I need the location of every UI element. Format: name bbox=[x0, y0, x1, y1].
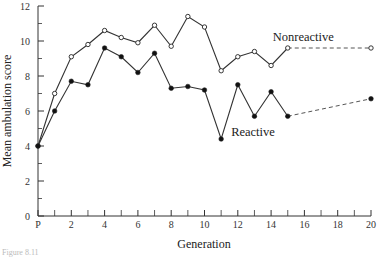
data-point bbox=[202, 88, 207, 93]
data-point bbox=[36, 144, 41, 149]
data-point bbox=[219, 69, 223, 73]
x-tick-label: 20 bbox=[366, 219, 376, 230]
series-dashed-line bbox=[288, 99, 371, 117]
series-label-nonreactive: Nonreactive bbox=[273, 30, 335, 44]
data-point bbox=[202, 25, 206, 29]
data-point bbox=[152, 23, 156, 27]
data-point bbox=[119, 35, 123, 39]
y-tick-label: 4 bbox=[25, 141, 30, 152]
data-point bbox=[252, 49, 256, 53]
y-tick-label: 0 bbox=[25, 211, 30, 222]
data-point bbox=[102, 28, 106, 32]
data-point bbox=[369, 46, 373, 50]
data-point bbox=[69, 79, 74, 84]
series-layer: NonreactiveReactive bbox=[36, 14, 374, 148]
data-point bbox=[69, 55, 73, 59]
data-point bbox=[136, 41, 140, 45]
data-point bbox=[236, 55, 240, 59]
x-tick-label: 12 bbox=[233, 219, 243, 230]
data-point bbox=[119, 54, 124, 59]
data-point bbox=[186, 84, 191, 89]
data-point bbox=[52, 109, 57, 114]
data-point bbox=[169, 44, 173, 48]
line-chart: 024681012P2468101214161820 NonreactiveRe… bbox=[0, 0, 379, 257]
y-tick-label: 10 bbox=[20, 36, 30, 47]
data-point bbox=[252, 114, 257, 119]
data-point bbox=[269, 89, 274, 94]
data-point bbox=[136, 70, 141, 75]
y-tick-label: 6 bbox=[25, 106, 30, 117]
data-point bbox=[102, 46, 107, 51]
series-nonreactive: Nonreactive bbox=[36, 14, 373, 148]
data-point bbox=[152, 51, 157, 56]
x-axis-title: Generation bbox=[177, 237, 230, 251]
x-tick-label: 14 bbox=[266, 219, 276, 230]
series-label-reactive: Reactive bbox=[231, 125, 275, 139]
data-point bbox=[52, 91, 56, 95]
data-point bbox=[186, 14, 190, 18]
data-point bbox=[86, 82, 91, 87]
data-point bbox=[369, 96, 374, 101]
y-tick-label: 2 bbox=[25, 176, 30, 187]
x-tick-label: 16 bbox=[299, 219, 309, 230]
data-point bbox=[169, 86, 174, 91]
figure-caption: Figure 8.11 bbox=[2, 248, 39, 257]
x-tick-label: 6 bbox=[135, 219, 140, 230]
y-tick-label: 12 bbox=[20, 1, 30, 12]
y-axis-title: Mean ambulation score bbox=[0, 55, 14, 168]
x-tick-label: 4 bbox=[102, 219, 107, 230]
data-point bbox=[269, 63, 273, 67]
y-tick-label: 8 bbox=[25, 71, 30, 82]
data-point bbox=[285, 114, 290, 119]
data-point bbox=[236, 82, 241, 87]
x-tick-label: 10 bbox=[200, 219, 210, 230]
data-point bbox=[219, 137, 224, 142]
data-point bbox=[86, 42, 90, 46]
x-tick-label: 18 bbox=[333, 219, 343, 230]
x-tick-label: 8 bbox=[169, 219, 174, 230]
data-point bbox=[286, 46, 290, 50]
x-tick-label: 2 bbox=[69, 219, 74, 230]
series-reactive: Reactive bbox=[36, 46, 374, 149]
x-tick-label: P bbox=[35, 219, 41, 230]
